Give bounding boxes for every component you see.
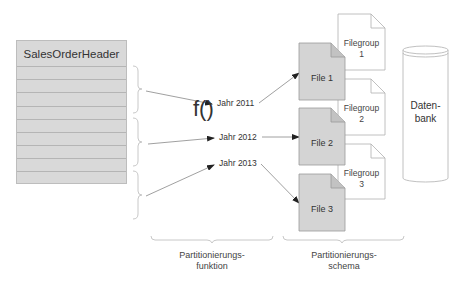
table-title: SalesOrderHeader <box>17 48 126 60</box>
filegroup-2-line1: Filegroup <box>338 103 385 114</box>
arrow-to-file1 <box>259 73 299 103</box>
brace-partition-function <box>151 236 273 243</box>
filegroup-1-label: Filegroup 1 <box>338 38 385 60</box>
file-1-label: File 1 <box>299 73 345 83</box>
partition-scheme-caption-line2: schema <box>284 261 404 272</box>
arrow-to-file3 <box>261 164 299 203</box>
filegroup-3-line1: Filegroup <box>338 168 385 179</box>
arrow-to-2013 <box>146 165 214 196</box>
filegroup-3-line2: 3 <box>338 179 385 190</box>
partition-function-caption-line2: funktion <box>152 261 272 272</box>
year-label-2011: Jahr 2011 <box>217 98 254 108</box>
table-row-divider <box>17 132 126 133</box>
sales-order-header-table: SalesOrderHeader <box>16 40 127 184</box>
partition-scheme-caption: Partitionierungs- schema <box>284 250 404 272</box>
table-row-divider <box>17 158 126 159</box>
table-row-divider <box>17 171 126 172</box>
file-3-label: File 3 <box>299 204 345 214</box>
year-label-2012: Jahr 2012 <box>219 132 257 142</box>
database-label-line2: bank <box>403 112 448 125</box>
file-2-label: File 2 <box>299 138 345 148</box>
brace-partition-scheme <box>283 236 404 243</box>
table-row-divider <box>17 119 126 120</box>
table-row-divider <box>17 92 126 93</box>
arrow-to-2012 <box>148 138 214 144</box>
filegroup-1-line2: 1 <box>338 49 385 60</box>
filegroup-2-label: Filegroup 2 <box>338 103 385 125</box>
table-row-divider <box>17 145 126 146</box>
database-label: Daten- bank <box>403 99 448 125</box>
table-row-divider <box>17 79 126 80</box>
brace-group-1 <box>133 66 142 113</box>
partition-scheme-caption-line1: Partitionierungs- <box>284 250 404 261</box>
table-row-divider <box>17 66 126 67</box>
database-label-line1: Daten- <box>403 99 448 112</box>
filegroup-2-line2: 2 <box>338 114 385 125</box>
year-label-2013: Jahr 2013 <box>219 158 257 168</box>
brace-group-2 <box>133 118 142 166</box>
partition-function-symbol: f() <box>193 97 214 121</box>
partition-function-caption-line1: Partitionierungs- <box>152 250 272 261</box>
table-row-divider <box>17 106 126 107</box>
filegroup-1-line1: Filegroup <box>338 38 385 49</box>
brace-group-3 <box>133 171 142 219</box>
partition-function-caption: Partitionierungs- funktion <box>152 250 272 272</box>
filegroup-3-label: Filegroup 3 <box>338 168 385 190</box>
